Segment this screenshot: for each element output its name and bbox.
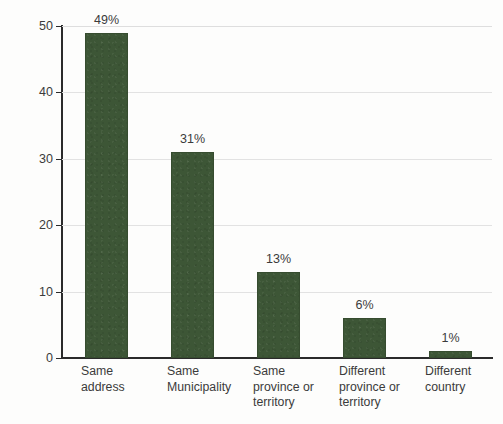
y-axis-tick-mark <box>56 26 62 27</box>
bar[interactable]: 31% <box>171 152 214 358</box>
y-axis-tick-mark <box>56 225 62 226</box>
plot-area: 0102030405049%31%13%6%1% <box>62 26 492 358</box>
y-axis-tick-label: 10 <box>39 285 53 299</box>
y-axis-tick-label: 50 <box>39 19 53 33</box>
y-axis-tick-mark <box>56 92 62 93</box>
y-axis-tick-label: 0 <box>46 351 53 365</box>
grid-line <box>62 26 492 27</box>
y-axis-tick-label: 20 <box>39 218 53 232</box>
x-axis-category-label: Same province or territory <box>253 364 345 411</box>
bar-value-label: 13% <box>266 252 291 266</box>
bar[interactable]: 13% <box>257 272 300 358</box>
bar[interactable]: 1% <box>429 351 472 358</box>
bar-value-label: 1% <box>441 331 459 345</box>
x-axis-category-label: Same Municipality <box>167 364 259 395</box>
x-axis-category-label: Same address <box>81 364 173 395</box>
y-axis-title: Percentage (%) <box>0 0 22 424</box>
y-axis-tick-mark <box>56 358 62 359</box>
y-axis-tick-label: 40 <box>39 85 53 99</box>
bar[interactable]: 6% <box>343 318 386 358</box>
bar-value-label: 49% <box>94 13 119 27</box>
x-axis-category-label: Different country <box>425 364 503 395</box>
bar-value-label: 31% <box>180 132 205 146</box>
x-axis-category-label: Different province or territory <box>339 364 431 411</box>
y-axis-tick-mark <box>56 159 62 160</box>
bar-chart-figure: Percentage (%) 0102030405049%31%13%6%1% … <box>0 0 503 424</box>
y-axis-tick-label: 30 <box>39 152 53 166</box>
bar-value-label: 6% <box>355 298 373 312</box>
bar[interactable]: 49% <box>85 33 128 358</box>
y-axis-tick-mark <box>56 292 62 293</box>
